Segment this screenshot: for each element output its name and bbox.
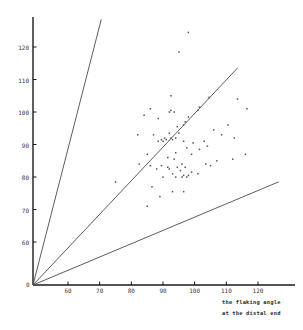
data-point xyxy=(237,98,239,100)
y-tick-label: 90 xyxy=(9,141,29,148)
data-point xyxy=(161,139,163,141)
data-point xyxy=(177,167,179,169)
data-point xyxy=(183,175,185,177)
data-point xyxy=(172,191,174,193)
data-point xyxy=(139,163,141,165)
data-point xyxy=(162,176,164,178)
data-point xyxy=(221,134,223,136)
data-point xyxy=(175,176,177,178)
data-point xyxy=(158,141,160,143)
data-point xyxy=(181,176,183,178)
data-point xyxy=(159,196,161,198)
data-point xyxy=(169,168,171,170)
data-point xyxy=(164,137,166,139)
data-point xyxy=(186,147,188,149)
data-point xyxy=(210,165,212,167)
data-point xyxy=(169,132,171,134)
plot-canvas xyxy=(0,0,303,330)
axes-group xyxy=(33,17,295,285)
data-point xyxy=(188,32,190,34)
data-point xyxy=(205,163,207,165)
data-point xyxy=(203,141,205,143)
data-point xyxy=(170,137,172,139)
data-point xyxy=(165,139,167,141)
data-point xyxy=(191,171,193,173)
data-point xyxy=(170,95,172,97)
data-point xyxy=(192,142,194,144)
data-point xyxy=(172,139,174,141)
data-point xyxy=(178,51,180,53)
data-point xyxy=(172,173,174,175)
data-point xyxy=(188,116,190,118)
data-point xyxy=(177,126,179,128)
x-axis-caption: the flaking angle at the distal end xyxy=(222,297,302,319)
data-point xyxy=(137,134,139,136)
data-point xyxy=(167,167,169,169)
middle-reference-line xyxy=(33,68,237,285)
data-point xyxy=(199,149,201,151)
data-point xyxy=(115,181,117,183)
data-point xyxy=(232,158,234,160)
upper-reference-line xyxy=(33,19,101,285)
data-point xyxy=(207,145,209,147)
data-point xyxy=(150,108,152,110)
x-tick-label: 80 xyxy=(128,287,135,294)
data-point xyxy=(180,170,182,172)
data-point xyxy=(184,167,186,169)
data-point xyxy=(181,163,183,165)
data-point xyxy=(245,154,247,156)
x-tick-label: 110 xyxy=(221,287,232,294)
data-point xyxy=(183,191,185,193)
data-point xyxy=(191,154,193,156)
y-tick-label: 80 xyxy=(9,174,29,181)
data-point xyxy=(178,132,180,134)
data-point xyxy=(186,176,188,178)
scatter-plot-figure: 60708090100110120607080901001101200 the … xyxy=(0,0,303,330)
x-tick-label: 70 xyxy=(96,287,103,294)
y-tick-label: 110 xyxy=(9,76,29,83)
x-tick-label: 100 xyxy=(189,287,200,294)
data-point xyxy=(246,108,248,110)
data-point xyxy=(161,165,163,167)
data-point xyxy=(170,110,172,112)
caption-line-1: the flaking angle xyxy=(222,297,302,308)
data-point xyxy=(197,110,199,112)
data-point xyxy=(146,154,148,156)
origin-label: 0 xyxy=(26,281,30,288)
data-point xyxy=(162,141,164,143)
data-point xyxy=(183,124,185,126)
data-point xyxy=(156,168,158,170)
y-tick-label: 120 xyxy=(9,44,29,51)
data-point xyxy=(143,115,145,117)
y-tick-label: 100 xyxy=(9,109,29,116)
data-point xyxy=(153,134,155,136)
data-point xyxy=(216,160,218,162)
x-tick-label: 60 xyxy=(64,287,71,294)
data-point xyxy=(173,111,175,113)
data-point xyxy=(183,141,185,143)
y-tick-label: 70 xyxy=(9,206,29,213)
data-point xyxy=(173,158,175,160)
data-point xyxy=(151,186,153,188)
data-point xyxy=(150,165,152,167)
data-point xyxy=(158,118,160,120)
x-tick-label: 90 xyxy=(159,287,166,294)
data-point xyxy=(213,129,215,131)
data-point xyxy=(197,173,199,175)
data-point xyxy=(234,137,236,139)
data-point xyxy=(208,97,210,99)
caption-line-2: at the distal end xyxy=(222,308,302,319)
data-points-group xyxy=(115,32,248,207)
lower-reference-line xyxy=(33,182,279,285)
data-point xyxy=(169,111,171,113)
data-point xyxy=(146,206,148,208)
data-point xyxy=(199,106,201,108)
data-point xyxy=(184,121,186,123)
data-point xyxy=(175,152,177,154)
data-point xyxy=(188,175,190,177)
data-point xyxy=(175,137,177,139)
y-tick-label: 60 xyxy=(9,239,29,246)
x-tick-label: 120 xyxy=(253,287,264,294)
reference-lines-group xyxy=(33,19,279,285)
data-point xyxy=(167,157,169,159)
